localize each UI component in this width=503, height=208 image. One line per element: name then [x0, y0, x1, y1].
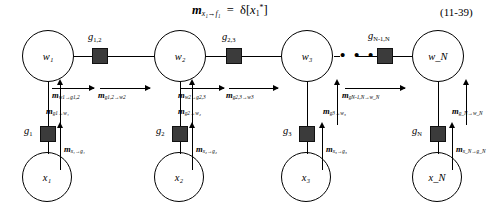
message-label-w1-to-g12-m: m — [52, 90, 59, 100]
message-label-gN-to-wN-sub: g_N→w_N — [459, 110, 483, 116]
message-label-x3-to-g3-sub: x₃→g₃ — [333, 148, 347, 154]
edge-g1-x1 — [48, 142, 49, 154]
equation-expression: mx₁→f₁ = δ[x1*] — [192, 3, 268, 18]
variable-node-xN-label: x_N — [413, 153, 461, 201]
message-arrow-g23-to-w3 — [229, 88, 278, 89]
equation-line: mx₁→f₁ = δ[x1*] (11-39) — [0, 2, 503, 24]
message-arrow-xN-to-gN — [452, 128, 453, 170]
message-label-x1-to-g1-m: m — [64, 144, 71, 154]
message-label-w2-to-g23-sub: w2→g2,3 — [185, 94, 206, 100]
variable-node-w1: w₁ — [22, 30, 74, 82]
message-label-gN1N-to-wN-sub: gN-1,N→w_N — [349, 94, 380, 100]
factor-label-g2-sub: 2 — [161, 130, 164, 137]
equation-number: (11-39) — [440, 6, 473, 18]
message-label-x2-to-g2: mx₂→g₂ — [196, 144, 217, 154]
message-arrow-g2-to-w2 — [192, 85, 193, 125]
edge-w3-g3 — [307, 82, 308, 126]
message-label-gN-to-wN: mg_N→w_N — [452, 106, 483, 116]
message-label-g3-to-w3: mg3→w₃ — [323, 106, 346, 116]
factor-node-g12 — [92, 48, 108, 64]
message-label-w1-to-g12-sub: w1→g1,2 — [59, 94, 80, 100]
equation-lhs-subscript: x₁→f₁ — [202, 9, 221, 18]
variable-node-x3: x₃ — [281, 152, 331, 202]
edge-gN-xN — [438, 142, 439, 154]
message-label-x1-to-g1-sub: x₁→g₁ — [71, 148, 85, 154]
factor-label-g12-sub: 1,2 — [93, 36, 101, 43]
message-label-xN-to-gN-m: m — [456, 144, 463, 154]
message-label-g1-to-w1-m: m — [46, 106, 53, 116]
factor-label-g3: g3 — [283, 125, 292, 137]
message-arrow-gN-to-wN — [466, 85, 467, 125]
factor-node-g3 — [299, 126, 315, 142]
factor-node-g1 — [40, 126, 56, 142]
edge-g2-x2 — [180, 142, 181, 154]
message-arrow-gN1N-to-wN — [345, 88, 405, 89]
variable-node-w2: w₂ — [154, 30, 206, 82]
message-label-g23-to-w3-m: m — [226, 90, 233, 100]
message-label-g12-to-w2: mg1,2→w2 — [98, 90, 126, 100]
edge-w2-g23 — [206, 56, 226, 57]
message-label-g3-to-w3-m: m — [323, 106, 330, 116]
message-label-xN-to-gN-sub: x_N→g_N — [463, 148, 486, 154]
variable-node-w1-label: w₁ — [23, 31, 73, 81]
message-arrow-g3-to-w3 — [337, 85, 338, 125]
message-label-w2-to-g23-m: m — [178, 90, 185, 100]
message-arrow-x1-to-g1 — [60, 128, 61, 170]
variable-node-x2-label: x₂ — [155, 153, 203, 201]
edge-g3-x3 — [307, 142, 308, 154]
equation-delta-open: δ[ — [240, 3, 250, 17]
variable-node-w2-label: w₂ — [155, 31, 205, 81]
variable-node-w3: w₃ — [281, 30, 333, 82]
message-arrow-x2-to-g2 — [192, 128, 193, 170]
chain-ellipsis: • • • — [340, 47, 376, 64]
equation-equals: = — [227, 3, 234, 17]
edge-g12-w2 — [108, 56, 154, 57]
message-label-gN1N-to-wN: mgN-1,N→w_N — [342, 90, 379, 100]
message-label-g23-to-w3: mg2,3→w3 — [226, 90, 254, 100]
edge-g23-w3 — [242, 56, 281, 57]
message-label-x3-to-g3-m: m — [326, 144, 333, 154]
message-arrow-g1-to-w1 — [60, 85, 61, 125]
factor-label-gN1N: gN-1,N — [368, 30, 390, 42]
message-arrow-x3-to-g3 — [322, 128, 323, 170]
message-label-w1-to-g12: mw1→g1,2 — [52, 90, 80, 100]
equation-lhs-symbol: m — [192, 3, 202, 17]
message-label-g12-to-w2-m: m — [98, 90, 105, 100]
message-label-xN-to-gN: mx_N→g_N — [456, 144, 485, 154]
message-label-g3-to-w3-sub: g3→w₃ — [330, 110, 346, 116]
edge-wN-gN — [438, 82, 439, 126]
factor-label-g2: g2 — [156, 125, 165, 137]
edge-gN1N-wN — [393, 56, 412, 57]
message-label-g23-to-w3-sub: g2,3→w3 — [233, 94, 254, 100]
message-label-x3-to-g3: mx₃→g₃ — [326, 144, 347, 154]
factor-label-g1-sub: 1 — [29, 130, 32, 137]
message-label-g1-to-w1: mg1→w₁ — [46, 106, 69, 116]
message-arrow-g12-to-w2 — [100, 88, 150, 89]
factor-label-g1: g1 — [24, 125, 33, 137]
factor-label-gN-sub: N — [417, 130, 422, 137]
variable-node-wN: w_N — [412, 30, 464, 82]
message-label-gN1N-to-wN-m: m — [342, 90, 349, 100]
equation-delta-close: ] — [263, 3, 267, 17]
message-arrow-w2-to-g23 — [180, 88, 224, 89]
message-label-g2-to-w2-m: m — [178, 106, 185, 116]
variable-node-wN-label: w_N — [413, 31, 463, 81]
variable-node-x1: x₁ — [22, 152, 72, 202]
message-label-g2-to-w2-sub: g2→w₂ — [185, 110, 201, 116]
factor-label-g23: g2,3 — [222, 31, 235, 43]
factor-node-g2 — [172, 126, 188, 142]
variable-node-xN: x_N — [412, 152, 462, 202]
edge-w1-g1 — [48, 82, 49, 126]
variable-node-x1-label: x₁ — [23, 153, 71, 201]
edge-w1-g12 — [74, 56, 92, 57]
factor-label-g23-sub: 2,3 — [227, 36, 235, 43]
factor-label-gN1N-sub: N-1,N — [373, 35, 389, 42]
factor-node-g23 — [226, 48, 242, 64]
factor-label-gN: gN — [412, 125, 422, 137]
factor-node-gN1N — [377, 48, 393, 64]
variable-node-w3-label: w₃ — [282, 31, 332, 81]
message-label-x2-to-g2-m: m — [196, 144, 203, 154]
message-label-x1-to-g1: mx₁→g₁ — [64, 144, 85, 154]
message-arrow-w1-to-g12 — [52, 88, 94, 89]
message-label-x2-to-g2-sub: x₂→g₂ — [203, 148, 217, 154]
